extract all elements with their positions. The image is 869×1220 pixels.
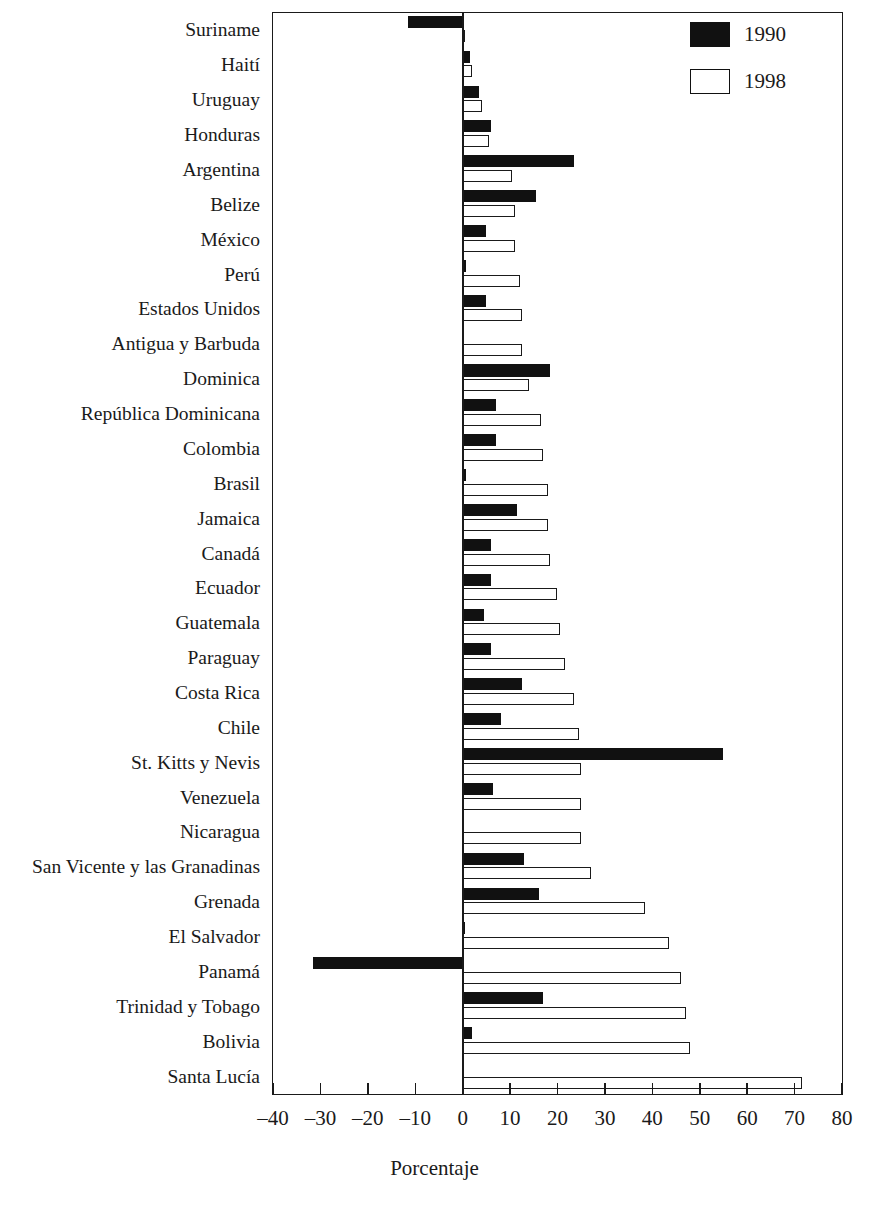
category-label: Costa Rica	[175, 683, 260, 703]
category-label: Nicaragua	[180, 822, 260, 842]
x-axis-tick	[367, 1083, 369, 1094]
bar-1990	[463, 643, 491, 655]
bar-1998	[463, 1042, 691, 1054]
x-axis-tick	[415, 1083, 417, 1094]
bar-1998	[463, 484, 548, 496]
bar-1998	[463, 344, 522, 356]
bar-1990	[463, 713, 501, 725]
bar-chart: SurinameHaitíUruguayHondurasArgentinaBel…	[0, 0, 869, 1220]
x-axis-title: Porcentaje	[0, 1156, 869, 1181]
bar-1990	[463, 574, 491, 586]
bar-1990	[463, 748, 724, 760]
category-label: Uruguay	[192, 90, 260, 110]
category-label: México	[200, 230, 260, 250]
bar-1998	[463, 240, 515, 252]
x-axis-tick-label: –10	[400, 1108, 432, 1129]
bar-1990	[463, 678, 522, 690]
x-axis-tick-label: 10	[500, 1108, 521, 1129]
legend-swatch-1990	[690, 22, 730, 47]
category-label: Haití	[221, 55, 260, 75]
bar-1990	[463, 992, 544, 1004]
category-label: Perú	[224, 265, 260, 285]
bar-1998	[463, 728, 579, 740]
x-axis-tick	[320, 1083, 322, 1094]
category-label: Antigua y Barbuda	[112, 334, 260, 354]
category-label: Paraguay	[187, 648, 260, 668]
bar-1998	[463, 170, 513, 182]
category-label: Colombia	[183, 439, 260, 459]
x-axis-tick	[272, 1083, 274, 1094]
bar-1998	[463, 414, 541, 426]
bar-1998	[463, 937, 669, 949]
bar-1998	[463, 379, 529, 391]
x-axis-tick-label: 70	[784, 1108, 805, 1129]
category-label: Guatemala	[176, 613, 260, 633]
bar-1990	[463, 364, 551, 376]
category-label: Ecuador	[195, 578, 260, 598]
legend-item-1990: 1990	[690, 22, 840, 47]
category-label: Venezuela	[180, 788, 260, 808]
bar-1998	[463, 902, 646, 914]
category-label: El Salvador	[168, 927, 260, 947]
legend-item-1998: 1998	[690, 69, 840, 94]
bar-1998	[463, 554, 551, 566]
x-axis-tick-label: 50	[689, 1108, 710, 1129]
x-axis-tick-label: 20	[547, 1108, 568, 1129]
x-axis-tick-label: 0	[457, 1108, 468, 1129]
bar-1998	[463, 658, 565, 670]
x-axis-tick	[462, 1083, 464, 1094]
bar-1990	[313, 957, 462, 969]
bar-1998	[463, 65, 472, 77]
bar-1998	[463, 100, 482, 112]
category-label: Panamá	[198, 962, 260, 982]
bar-1998	[463, 832, 582, 844]
category-label: San Vicente y las Granadinas	[32, 857, 260, 877]
x-axis-tick	[699, 1083, 701, 1094]
x-axis-tick	[841, 1083, 843, 1094]
bar-1998	[463, 205, 515, 217]
category-label: Bolivia	[203, 1032, 260, 1052]
category-label: Jamaica	[197, 509, 260, 529]
bar-1998	[463, 275, 520, 287]
x-axis-tick	[794, 1083, 796, 1094]
category-label: Canadá	[202, 544, 260, 564]
legend-label-1990: 1990	[744, 24, 786, 45]
bar-1998	[463, 449, 544, 461]
category-axis-labels: SurinameHaitíUruguayHondurasArgentinaBel…	[0, 13, 266, 1094]
bar-1990	[463, 539, 491, 551]
bar-1998	[463, 623, 560, 635]
bars-container	[273, 13, 842, 1094]
category-label: Dominica	[183, 369, 260, 389]
category-label: Argentina	[182, 160, 260, 180]
bar-1998	[463, 763, 582, 775]
category-label: Belize	[210, 195, 260, 215]
x-axis-tick	[652, 1083, 654, 1094]
bar-1998	[463, 1077, 802, 1089]
x-axis-tick	[557, 1083, 559, 1094]
category-label: Estados Unidos	[138, 299, 260, 319]
bar-1998	[463, 309, 522, 321]
x-axis-tick-label: 60	[737, 1108, 758, 1129]
bar-1990	[463, 783, 494, 795]
x-axis-tick-label: 80	[832, 1108, 853, 1129]
bar-1990	[463, 609, 484, 621]
bar-1990	[463, 86, 480, 98]
bar-1990	[463, 120, 491, 132]
bar-1990	[463, 155, 574, 167]
x-axis-tick	[604, 1083, 606, 1094]
bar-1998	[463, 519, 548, 531]
x-axis-tick-label: –30	[305, 1108, 337, 1129]
bar-1998	[463, 1007, 686, 1019]
legend-label-1998: 1998	[744, 71, 786, 92]
category-label: Brasil	[213, 474, 260, 494]
x-axis-tick-label: 30	[594, 1108, 615, 1129]
x-axis-tick	[509, 1083, 511, 1094]
bar-1990	[463, 1027, 472, 1039]
bar-1998	[463, 972, 681, 984]
bar-1998	[463, 798, 582, 810]
legend-swatch-1998	[690, 69, 730, 94]
category-label: Trinidad y Tobago	[116, 997, 260, 1017]
bar-1998	[463, 588, 558, 600]
category-label: Chile	[218, 718, 260, 738]
bar-1998	[463, 135, 489, 147]
